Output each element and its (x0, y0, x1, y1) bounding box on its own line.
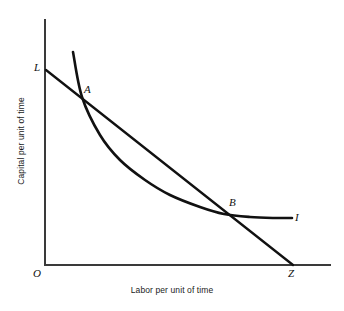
isoquant-isocost-figure: Capital per unit of time Labor per unit … (0, 0, 344, 311)
label-isoquant: I (295, 212, 299, 223)
label-isocost-bottom: Z (288, 268, 294, 279)
isoquant-curve (73, 52, 292, 218)
y-axis-title: Capital per unit of time (16, 76, 26, 206)
label-point-b: B (229, 197, 236, 208)
x-axis-title: Labor per unit of time (97, 285, 247, 295)
plot-canvas (0, 0, 344, 311)
label-isocost-top: L (34, 62, 40, 73)
label-point-a: A (84, 84, 91, 95)
label-origin: O (33, 268, 41, 279)
